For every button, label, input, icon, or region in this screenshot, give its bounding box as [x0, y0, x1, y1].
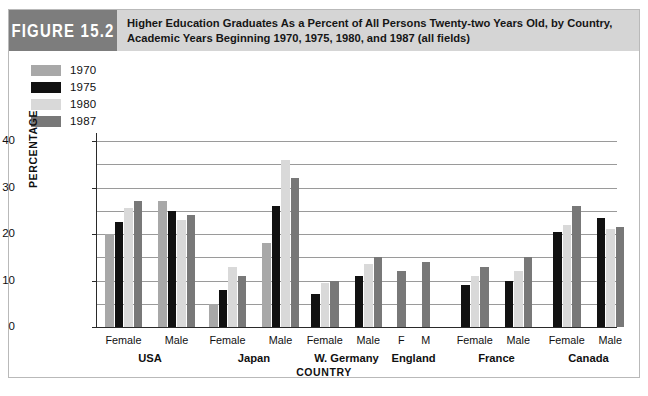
figure-container: FIGURE 15.2 Higher Education Graduates A… — [8, 9, 640, 378]
y-tick-label: 0 — [0, 320, 15, 332]
legend-item: 1980 — [31, 96, 96, 112]
chart-legend: 1970197519801987 — [31, 62, 96, 130]
y-axis-label: PERCENTAGE — [27, 110, 39, 188]
bar — [480, 267, 489, 327]
y-tick-mark — [92, 234, 97, 235]
bar — [374, 257, 383, 327]
legend-item: 1970 — [31, 62, 96, 78]
bar — [209, 304, 218, 327]
x-subgroup-label: Female — [457, 334, 493, 346]
y-axis-line — [96, 133, 97, 327]
x-axis-label: COUNTRY — [9, 366, 639, 378]
figure-title-bar: Higher Education Graduates As a Percent … — [117, 10, 639, 51]
bar — [355, 276, 364, 327]
legend-item: 1975 — [31, 79, 96, 95]
x-subgroup-label: Female — [105, 334, 141, 346]
bar — [524, 257, 533, 327]
bar — [563, 225, 572, 327]
legend-label: 1987 — [70, 115, 96, 127]
x-country-label: USA — [138, 352, 162, 364]
bar — [219, 290, 228, 327]
x-subgroup-label: F — [398, 334, 405, 346]
legend-label: 1980 — [70, 98, 96, 110]
bar — [158, 201, 167, 327]
bar — [461, 285, 470, 327]
figure-header: FIGURE 15.2 Higher Education Graduates A… — [9, 10, 639, 51]
bar — [187, 215, 196, 327]
bar — [105, 234, 114, 327]
bar — [553, 232, 562, 327]
bar — [397, 271, 406, 327]
x-subgroup-label: Male — [599, 334, 622, 346]
bar — [124, 208, 133, 327]
bar — [272, 206, 281, 327]
figure-number-tab: FIGURE 15.2 — [9, 10, 117, 51]
x-country-label: Canada — [568, 352, 608, 364]
x-subgroup-label: Male — [507, 334, 530, 346]
x-subgroup-label: Female — [549, 334, 585, 346]
x-country-label: England — [391, 352, 435, 364]
bar — [281, 160, 290, 327]
x-axis-line — [96, 327, 617, 328]
bar — [572, 206, 581, 327]
legend-item: 1987 — [31, 113, 96, 129]
y-tick-label: 20 — [0, 227, 15, 239]
bar — [238, 276, 247, 327]
x-country-label: Japan — [238, 352, 270, 364]
bar — [177, 220, 186, 327]
legend-swatch-1970 — [31, 65, 61, 76]
plot-area: 010203040FemaleMaleUSAFemaleMaleJapanFem… — [97, 141, 617, 327]
figure-title: Higher Education Graduates As a Percent … — [127, 16, 631, 45]
y-tick-mark — [92, 188, 97, 189]
bar — [597, 218, 606, 327]
bar — [471, 276, 480, 327]
gridline — [97, 141, 617, 142]
y-tick-mark — [92, 141, 97, 142]
legend-label: 1975 — [70, 81, 96, 93]
x-subgroup-label: M — [421, 334, 430, 346]
legend-swatch-1980 — [31, 99, 61, 110]
bar — [505, 281, 514, 328]
y-tick-label: 40 — [0, 134, 15, 146]
bar — [321, 283, 330, 327]
x-subgroup-label: Female — [209, 334, 245, 346]
gridline — [97, 164, 617, 165]
y-tick-mark — [92, 327, 97, 328]
x-subgroup-label: Male — [165, 334, 188, 346]
x-country-label: France — [478, 352, 515, 364]
y-tick-label: 30 — [0, 181, 15, 193]
bar — [228, 267, 237, 327]
legend-label: 1970 — [70, 64, 96, 76]
bar — [311, 294, 320, 327]
x-country-label: W. Germany — [314, 352, 379, 364]
bar — [514, 271, 523, 327]
bar — [291, 178, 300, 327]
bar — [616, 227, 625, 327]
bar — [422, 262, 431, 327]
bar — [262, 243, 271, 327]
bar — [606, 229, 615, 327]
figure-number-label: FIGURE 15.2 — [11, 20, 114, 40]
bar — [115, 222, 124, 327]
y-tick-label: 10 — [0, 274, 15, 286]
x-subgroup-label: Male — [269, 334, 292, 346]
x-subgroup-label: Male — [357, 334, 380, 346]
legend-swatch-1975 — [31, 82, 61, 93]
plot-inner — [97, 141, 617, 327]
y-tick-mark — [92, 281, 97, 282]
bar — [364, 264, 373, 327]
bar — [330, 281, 339, 328]
bar — [134, 201, 143, 327]
gridline — [97, 188, 617, 189]
bar — [168, 211, 177, 327]
x-subgroup-label: Female — [307, 334, 343, 346]
